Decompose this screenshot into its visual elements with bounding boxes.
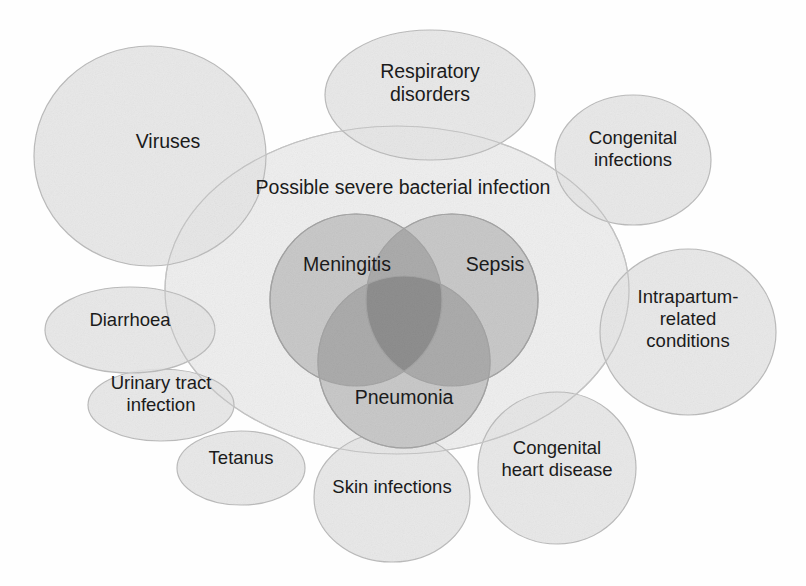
set-respiratory-disorders xyxy=(325,30,535,160)
set-urinary-tract-infection xyxy=(88,369,234,441)
set-congenital-heart-disease xyxy=(478,392,636,544)
set-viruses xyxy=(34,46,266,266)
set-skin-infections xyxy=(314,432,470,562)
set-diarrhoea xyxy=(45,287,215,373)
set-congenital-infections xyxy=(555,95,711,225)
set-intrapartum-related-conditions xyxy=(600,249,776,415)
venn-figure: Possible severe bacterial infection Meni… xyxy=(0,0,806,586)
set-tetanus xyxy=(177,431,305,505)
venn-canvas xyxy=(0,0,806,586)
